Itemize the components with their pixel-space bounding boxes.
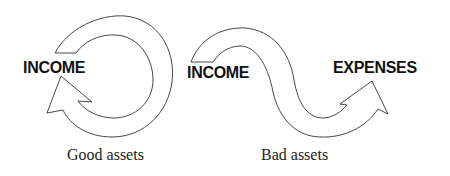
s-curve-arrow-icon [191,28,388,137]
bad-assets-caption: Bad assets [261,147,328,163]
circular-arrow-icon [47,16,173,137]
asset-flow-diagram: INCOME INCOME EXPENSES Good assets Bad a… [0,0,450,176]
good-assets-caption: Good assets [67,147,144,163]
income-label-right: INCOME [187,65,249,81]
income-label-left: INCOME [23,60,85,76]
expenses-label: EXPENSES [333,60,417,76]
